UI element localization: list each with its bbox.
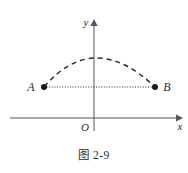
point-b-marker bbox=[152, 84, 158, 90]
y-axis-arrow-icon bbox=[90, 19, 97, 26]
figure-caption: 图 2-9 bbox=[0, 146, 188, 162]
figure-container: A B y x O 图 2-9 bbox=[0, 0, 188, 173]
point-b-label: B bbox=[163, 80, 171, 94]
point-a-label: A bbox=[26, 80, 35, 94]
x-axis-label: x bbox=[177, 120, 183, 132]
point-a-marker bbox=[41, 84, 47, 90]
parabolic-arc-curve bbox=[44, 58, 155, 87]
origin-label: O bbox=[81, 121, 89, 133]
y-axis-label: y bbox=[83, 16, 89, 28]
